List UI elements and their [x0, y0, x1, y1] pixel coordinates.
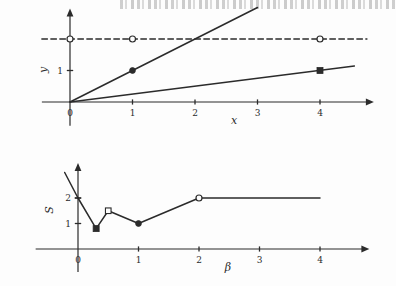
figure-page: 012341xy 0123412βS — [0, 0, 396, 286]
marker-filled-square — [93, 226, 99, 232]
y-axis-arrow-icon — [75, 163, 82, 171]
marker-filled-square — [317, 68, 323, 74]
series-steep-line — [70, 8, 258, 103]
x-tick-label: 0 — [75, 255, 81, 265]
y-axis-arrow-icon — [67, 8, 74, 16]
bottom-chart: 0123412βS — [0, 143, 396, 286]
x-tick-label: 2 — [196, 255, 202, 265]
top-chart: 012341xy — [0, 0, 396, 143]
x-axis-arrow-icon — [366, 99, 374, 106]
y-tick-label: 2 — [65, 193, 71, 203]
x-tick-label: 4 — [317, 108, 323, 118]
series-S-of-beta — [65, 173, 320, 229]
bottom-chart-svg: 0123412βS — [0, 143, 396, 286]
x-tick-label: 4 — [317, 255, 323, 265]
marker-open-square — [105, 208, 111, 214]
x-axis-arrow-icon — [361, 246, 369, 253]
series-shallow-line — [70, 66, 354, 102]
marker-open-circle — [130, 36, 136, 42]
x-tick-label: 3 — [257, 255, 263, 265]
x-tick-label: 1 — [136, 255, 142, 265]
marker-filled-circle — [130, 68, 136, 74]
x-tick-label: 3 — [255, 108, 261, 118]
y-axis-label: y — [37, 66, 50, 74]
marker-open-circle — [196, 195, 202, 201]
y-tick-label: 1 — [65, 219, 71, 229]
marker-open-circle — [317, 36, 323, 42]
marker-open-circle — [67, 36, 73, 42]
y-axis-label: S — [43, 206, 56, 214]
y-tick-label: 1 — [57, 66, 63, 76]
x-tick-label: 2 — [192, 108, 198, 118]
x-axis-label: x — [231, 114, 238, 127]
top-chart-svg: 012341xy — [0, 0, 396, 143]
marker-filled-circle — [136, 221, 142, 227]
x-tick-label: 1 — [130, 108, 136, 118]
x-axis-label: β — [224, 261, 231, 274]
x-tick-label: 0 — [67, 108, 73, 118]
